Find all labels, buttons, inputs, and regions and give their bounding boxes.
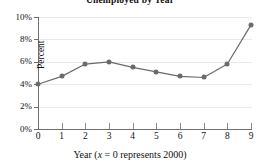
data-point [249,22,254,27]
x-axis-title: Year (x = 0 represents 2000) [0,149,260,160]
y-tick-label: 0% [20,125,32,134]
x-tick-label: 9 [249,132,254,142]
x-axis-title-prefix: Year ( [73,149,97,160]
x-tick-label: 1 [59,132,64,142]
x-tick-label: 7 [201,132,206,142]
y-tick-label: 2% [20,102,32,111]
x-tick-label: 6 [178,132,183,142]
x-axis-title-suffix: = 0 represents 2000) [102,149,187,160]
x-tick-label: 0 [36,132,41,142]
data-point [178,74,183,79]
data-point [83,62,88,67]
y-axis-title: Percent [36,41,46,70]
x-tick-label: 5 [154,132,159,142]
x-tick-label: 2 [83,132,88,142]
x-tick-label: 8 [225,132,230,142]
y-tick-label: 10% [16,13,33,22]
data-point [225,62,230,67]
y-tick-label: 4% [20,80,32,89]
data-point [154,69,159,74]
y-tick-label: 8% [20,35,32,44]
data-point [130,65,135,70]
y-tick-label: 6% [20,57,32,66]
data-point [107,59,112,64]
series-line [38,17,252,130]
plot-area: 0%2%4%6%8%10% 0123456789 Percent [38,17,252,130]
data-point [201,75,206,80]
data-point [59,74,64,79]
chart-container: Unemployed by Year 0%2%4%6%8%10% 0123456… [0,0,260,165]
x-tick-label: 4 [130,132,135,142]
chart-title: Unemployed by Year [0,0,260,5]
x-tick-label: 3 [107,132,112,142]
data-point [36,82,41,87]
